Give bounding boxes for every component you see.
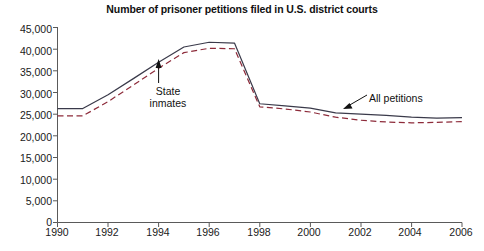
- y-axis-ticks: [53, 28, 58, 223]
- axes: [58, 27, 463, 223]
- annotation-arrow-all-petitions: [343, 95, 367, 109]
- plot-area: [0, 0, 484, 251]
- annotation-arrow-state-inmates: [156, 59, 162, 83]
- series-line-state-inmates: [58, 48, 463, 123]
- x-axis-ticks: [58, 223, 463, 228]
- chart-figure: Number of prisoner petitions filed in U.…: [0, 0, 484, 251]
